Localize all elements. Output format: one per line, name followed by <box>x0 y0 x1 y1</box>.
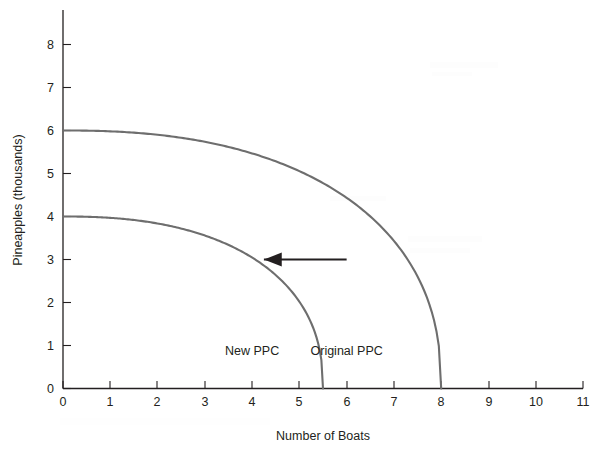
y-tick-label: 3 <box>47 253 54 267</box>
curve-new-ppc <box>63 217 323 389</box>
y-tick-labels: 0 1 2 3 4 5 6 7 8 <box>47 38 54 396</box>
x-tick-label: 6 <box>344 395 351 409</box>
background-artifacts <box>60 62 498 425</box>
x-tick-label: 2 <box>154 395 161 409</box>
x-tick-label: 5 <box>296 395 303 409</box>
new-ppc-label: New PPC <box>225 344 279 358</box>
original-ppc-label: Original PPC <box>311 344 383 358</box>
y-tick-label: 2 <box>47 296 54 310</box>
x-tick-label: 10 <box>529 395 543 409</box>
y-tick-label: 1 <box>47 339 54 353</box>
x-tick-label: 11 <box>577 395 590 409</box>
x-tick-label: 4 <box>249 395 256 409</box>
y-axis <box>63 10 71 389</box>
x-tick-label: 9 <box>486 395 493 409</box>
x-tick-labels: 0 1 2 3 4 5 6 7 8 9 10 11 <box>60 395 590 409</box>
x-tick-label: 7 <box>391 395 398 409</box>
chart-canvas: 0 1 2 3 4 5 6 7 8 0 1 <box>0 0 604 460</box>
x-tick-label: 3 <box>202 395 209 409</box>
y-tick-label: 4 <box>47 210 54 224</box>
ppc-chart: 0 1 2 3 4 5 6 7 8 0 1 <box>0 0 604 460</box>
y-axis-title: Pineapples (thousands) <box>11 134 25 265</box>
x-tick-label: 1 <box>107 395 114 409</box>
x-tick-label: 8 <box>438 395 445 409</box>
x-axis-title: Number of Boats <box>276 429 370 443</box>
y-tick-label: 0 <box>47 382 54 396</box>
y-tick-label: 6 <box>47 124 54 138</box>
y-tick-label: 8 <box>47 38 54 52</box>
y-tick-label: 5 <box>47 167 54 181</box>
x-tick-label: 0 <box>60 395 67 409</box>
y-tick-label: 7 <box>47 81 54 95</box>
